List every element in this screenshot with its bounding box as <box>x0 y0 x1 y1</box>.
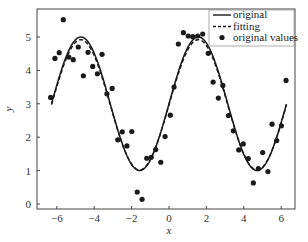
data-point <box>176 41 181 46</box>
data-point <box>129 129 134 134</box>
data-point <box>190 34 195 39</box>
x-axis-label: x <box>166 224 172 236</box>
data-point <box>200 31 205 36</box>
x-tick-label: 6 <box>278 212 284 224</box>
data-point <box>241 141 246 146</box>
data-point <box>110 86 115 91</box>
data-point <box>52 56 57 61</box>
x-tick-label: 0 <box>166 212 172 224</box>
x-tick-label: 4 <box>241 212 247 224</box>
legend: original fitting original values <box>209 8 298 46</box>
data-point <box>57 50 62 55</box>
data-point <box>195 33 200 38</box>
data-point <box>181 30 186 35</box>
data-point <box>95 71 100 76</box>
data-point <box>216 96 221 101</box>
data-point <box>139 197 144 202</box>
data-point <box>231 128 236 133</box>
data-point <box>99 52 104 57</box>
chart-canvas: −6−4−20246 012345 x y original fitting o… <box>0 0 308 242</box>
data-point <box>283 78 288 83</box>
data-point <box>246 156 251 161</box>
y-tick-label: 3 <box>26 98 32 110</box>
chart: −6−4−20246 012345 x y original fitting o… <box>0 0 308 242</box>
data-point <box>149 155 154 160</box>
data-point <box>206 51 211 56</box>
data-point <box>66 54 71 59</box>
legend-label-original-values: original values <box>233 31 298 43</box>
data-point <box>211 79 216 84</box>
data-point <box>153 147 158 152</box>
data-point <box>158 160 163 165</box>
x-tick-label: −6 <box>51 212 63 224</box>
data-point <box>171 85 176 90</box>
data-point <box>251 180 256 185</box>
data-point <box>162 134 167 139</box>
y-tick-label: 5 <box>26 31 32 43</box>
data-point <box>168 113 173 118</box>
legend-dot-marker-icon <box>219 35 224 40</box>
data-point <box>265 169 270 174</box>
x-tick-label: −4 <box>88 212 100 224</box>
data-point <box>144 156 149 161</box>
data-point <box>274 138 279 143</box>
y-tick-label: 2 <box>26 131 32 143</box>
data-point <box>104 91 109 96</box>
data-point <box>236 147 241 152</box>
data-point <box>256 166 261 171</box>
data-point <box>85 50 90 55</box>
y-tick-label: 1 <box>26 165 32 177</box>
x-tick-label: 2 <box>204 212 210 224</box>
data-point <box>61 17 66 22</box>
x-tick-label: −2 <box>126 212 138 224</box>
data-point <box>76 44 81 49</box>
data-point <box>115 137 120 142</box>
data-point <box>269 122 274 127</box>
data-point <box>220 83 225 88</box>
data-point <box>186 33 191 38</box>
y-axis: 012345 <box>26 31 41 210</box>
data-point <box>226 113 231 118</box>
data-point <box>71 57 76 62</box>
data-point <box>90 64 95 69</box>
legend-label-original: original <box>233 8 267 20</box>
legend-label-fitting: fitting <box>233 20 260 32</box>
y-tick-label: 0 <box>26 198 32 210</box>
data-point <box>279 123 284 128</box>
fitting-curve <box>52 40 287 170</box>
data-point <box>81 73 86 78</box>
data-point <box>135 189 140 194</box>
y-tick-label: 4 <box>26 64 32 76</box>
data-point <box>120 129 125 134</box>
data-point <box>260 150 265 155</box>
y-axis-label: y <box>2 106 14 112</box>
data-point <box>124 143 129 148</box>
data-point <box>48 95 53 100</box>
